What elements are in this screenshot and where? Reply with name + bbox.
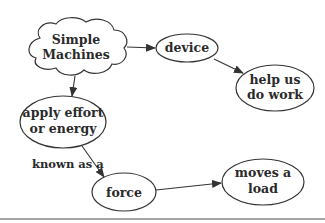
node-text-line-1: help us	[249, 72, 300, 87]
edge-simple-machines-to-apply-effort	[72, 76, 75, 96]
node-text-line-1: moves a	[235, 165, 291, 180]
node-text-line-2: do work	[247, 87, 303, 102]
node-text-line-1: force	[106, 185, 142, 200]
node-text-line-2: Machines	[42, 47, 109, 62]
edge-force-to-moves-a-load	[156, 183, 221, 190]
node-moves-a-load: moves a load	[222, 159, 304, 205]
node-force: force	[92, 173, 156, 211]
edge-device-to-help-us-do-work	[214, 59, 243, 73]
node-text-line-2: or energy	[30, 121, 98, 136]
node-text-line-1: apply effort	[23, 105, 104, 120]
node-simple-machines: Simple Machines	[29, 18, 127, 75]
node-help-us-do-work: help us do work	[236, 65, 314, 111]
node-text-line-1: device	[165, 40, 209, 55]
node-text-line-2: load	[248, 181, 278, 196]
node-apply-effort-or-energy: apply effort or energy	[20, 96, 106, 148]
node-text-line-1: Simple	[52, 32, 100, 47]
edge-simple-machines-to-device	[127, 47, 155, 48]
concept-map-canvas: known as a Simple Machines device help u…	[0, 0, 325, 223]
edge-label-known-as-a: known as a	[32, 157, 104, 171]
node-device: device	[156, 34, 218, 62]
